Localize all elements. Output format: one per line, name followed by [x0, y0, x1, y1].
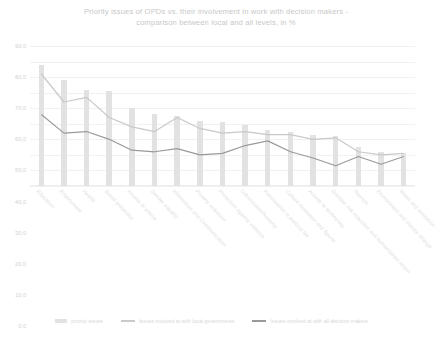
y-axis-tick-label: 20,0: [15, 261, 26, 267]
chart-title-line-1: Priority issues of OPDs vs. their involv…: [84, 7, 348, 16]
legend-label: Issues involved at with all decision mak…: [270, 318, 367, 324]
x-axis-tick-label: Participation in political life: [262, 188, 310, 239]
y-axis-tick-label: 30,0: [15, 230, 26, 236]
y-axis-tick-label: 10,0: [15, 292, 26, 298]
y-axis-tick-label: 80,0: [15, 74, 26, 80]
x-axis-tick-label: Health: [81, 188, 96, 204]
chart-title-line-2: comparison between local and all levels,…: [136, 18, 296, 27]
legend-label: Issues involved at with local government…: [139, 318, 234, 324]
y-axis-tick-label: 50,0: [15, 167, 26, 173]
y-axis-tick-label: 40,0: [15, 199, 26, 205]
x-axis-tick-label: Disaster risk reduction and humanitarian…: [330, 188, 411, 275]
x-axis-tick-label: Employment: [59, 188, 84, 214]
legend-swatch-icon: [121, 320, 135, 323]
x-axis-tick-label: Education: [36, 188, 57, 210]
legend-item[interactable]: priority issues: [55, 318, 103, 324]
y-axis-tick-label: 60,0: [15, 136, 26, 142]
x-axis-tick-label: Tourism: [353, 188, 370, 206]
plot-area: 0,010,020,030,040,050,060,070,080,090,0: [30, 46, 415, 186]
gridline: 0,0: [30, 186, 415, 187]
data-line: [41, 114, 403, 165]
y-axis-tick-label: 90,0: [15, 43, 26, 49]
chart-legend: priority issuesIssues involved at with l…: [0, 318, 423, 324]
legend-label: priority issues: [71, 318, 103, 324]
legend-swatch-icon: [55, 319, 67, 323]
chart-title: Priority issues of OPDs vs. their involv…: [36, 6, 396, 28]
y-axis-tick-label: 70,0: [15, 105, 26, 111]
x-axis-tick-label: Protection against violence: [217, 188, 266, 239]
legend-item[interactable]: Issues involved at with local government…: [121, 318, 234, 324]
line-series: [30, 46, 415, 186]
data-line: [41, 74, 403, 155]
legend-item[interactable]: Issues involved at with all decision mak…: [252, 318, 367, 324]
legend-swatch-icon: [252, 320, 266, 323]
x-axis-labels: EducationEmploymentHealthSocial protecti…: [30, 188, 415, 288]
